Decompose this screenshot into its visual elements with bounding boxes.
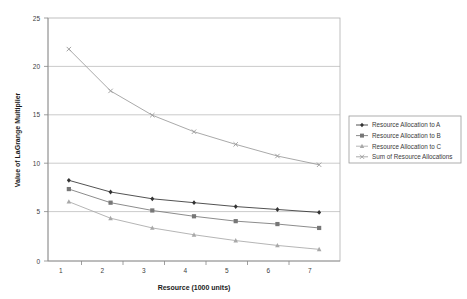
y-tick-label-25: 25 [33,15,41,22]
x-tick-label-6: 6 [266,267,270,274]
plot-area [48,18,340,261]
data-point [150,208,154,212]
legend-label-2: Resource Allocation to B [372,132,441,139]
x-axis: 1 2 3 4 5 6 7 Resource (1000 units) [48,261,340,292]
chart-container: 25 20 15 10 5 0 Value of LaGrange Multip… [0,0,467,299]
y-axis: 25 20 15 10 5 0 Value of LaGrange Multip… [14,15,48,265]
x-tick-label-4: 4 [183,267,187,274]
y-tick-label-20: 20 [33,63,41,70]
x-tick-label-7: 7 [308,267,312,274]
legend-marker-2 [360,134,364,138]
data-point [192,214,196,218]
x-tick-label-2: 2 [100,267,104,274]
data-point [275,222,279,226]
y-tick-label-10: 10 [33,160,41,167]
data-point [108,201,112,205]
x-tick-label-5: 5 [225,267,229,274]
data-point [67,187,71,191]
legend-label-3: Resource Allocation to C [372,143,441,150]
data-point [234,219,238,223]
plot-background [48,18,340,261]
x-tick-label-1: 1 [59,267,63,274]
data-point [317,226,321,230]
y-tick-label-5: 5 [36,208,40,215]
legend-label-4: Sum of Resource Allocations [372,153,453,160]
y-tick-label-15: 15 [33,111,41,118]
y-tick-label-0: 0 [36,258,40,265]
x-tick-label-3: 3 [142,267,146,274]
y-axis-title: Value of LaGrange Multiplier [14,92,22,187]
legend-label-1: Resource Allocation to A [372,121,441,128]
line-chart: 25 20 15 10 5 0 Value of LaGrange Multip… [0,0,467,299]
legend: Resource Allocation to AResource Allocat… [349,116,461,163]
x-axis-title: Resource (1000 units) [158,284,231,292]
